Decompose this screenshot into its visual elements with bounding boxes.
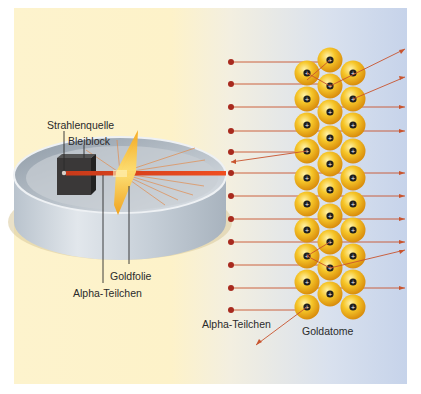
gold-atom: + [318,178,343,203]
svg-text:+: + [351,175,356,181]
alpha-beam [66,171,226,176]
svg-text:+: + [328,135,333,141]
alpha-particle [228,239,234,245]
svg-text:+: + [351,148,356,154]
svg-text:+: + [328,187,333,193]
svg-text:+: + [351,253,356,259]
label-lead-block: Bleiblock [68,135,110,147]
alpha-particle [228,193,234,199]
svg-text:+: + [328,239,333,245]
gold-atom: + [318,100,343,125]
gold-atom: + [341,295,366,320]
svg-text:+: + [328,213,333,219]
radiation-source-icon [62,171,66,175]
label-alpha-particles-left: Alpha-Teilchen [73,287,142,299]
gold-atom: + [295,192,320,217]
gold-atom: + [341,139,366,164]
label-radiation-source: Strahlenquelle [47,119,114,131]
gold-atom: + [295,270,320,295]
label-alpha-particles-right: Alpha-Teilchen [202,318,271,330]
gold-atom: + [341,192,366,217]
label-gold-atoms: Goldatome [302,325,353,337]
svg-text:+: + [328,291,333,297]
label-gold-foil: Goldfolie [110,270,151,282]
gold-atom: + [341,166,366,191]
alpha-particle [228,81,234,87]
alpha-particle [228,128,234,134]
gold-atom: + [318,126,343,151]
svg-text:+: + [305,175,310,181]
svg-text:+: + [305,201,310,207]
svg-text:+: + [328,161,333,167]
svg-text:+: + [328,109,333,115]
gold-atom: + [341,270,366,295]
gold-atom: + [318,204,343,229]
alpha-particle [228,216,234,222]
svg-text:+: + [351,304,356,310]
svg-text:+: + [351,279,356,285]
svg-text:+: + [305,227,310,233]
rutherford-experiment-diagram: ++++++++++++++++++++++++++++++ [0,0,421,394]
gold-atom: + [295,166,320,191]
svg-text:+: + [305,96,310,102]
svg-text:+: + [351,122,356,128]
gold-atom: + [318,282,343,307]
gold-atom: + [295,218,320,243]
alpha-particle [228,262,234,268]
alpha-particle [228,149,234,155]
gold-atom-lattice: ++++++++++++++++++++++++++++++ [295,48,366,320]
gold-atom: + [295,113,320,138]
alpha-particle [228,59,234,65]
alpha-particle [228,307,234,313]
gold-atom: + [295,87,320,112]
svg-text:+: + [351,201,356,207]
gold-atom: + [341,113,366,138]
svg-text:+: + [305,279,310,285]
gold-atom: + [318,152,343,177]
gold-atom: + [341,218,366,243]
gold-atom: + [341,61,366,86]
alpha-particle [228,170,234,176]
alpha-particle [228,285,234,291]
svg-text:+: + [351,227,356,233]
svg-text:+: + [305,122,310,128]
alpha-particle [228,104,234,110]
